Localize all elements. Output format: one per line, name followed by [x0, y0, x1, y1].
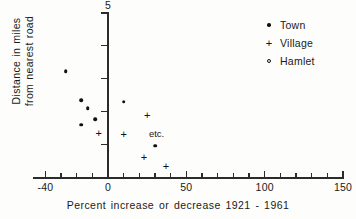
data-point-village: +	[140, 152, 149, 161]
data-point-town	[153, 144, 157, 148]
x-axis-minor-tick	[280, 173, 281, 178]
data-point-town	[122, 100, 126, 104]
data-point-town	[86, 106, 90, 110]
y-axis-tick	[101, 111, 107, 112]
x-axis-major-tick	[342, 171, 343, 178]
x-axis-minor-tick	[60, 173, 61, 178]
x-axis-line	[33, 177, 344, 179]
scatter-chart-figure: 5 -40050100150 +++++ etc. Town+VillageHa…	[0, 0, 356, 219]
x-axis-minor-tick	[311, 173, 312, 178]
x-axis-minor-tick	[248, 173, 249, 178]
x-axis-minor-tick	[327, 173, 328, 178]
y-axis-tick	[101, 78, 107, 79]
x-axis-tick-label: 150	[334, 181, 352, 193]
legend-item-town[interactable]: Town	[262, 16, 315, 34]
legend-item-village[interactable]: +Village	[262, 34, 315, 52]
y-axis-tick	[101, 144, 107, 145]
x-axis-minor-tick	[170, 173, 171, 178]
legend-item-label: Village	[280, 37, 313, 49]
filled-circle-glyph	[267, 23, 271, 27]
y-axis-title-line-1: Distance in miles	[10, 0, 23, 126]
legend-item-hamlet[interactable]: Hamlet	[262, 52, 315, 70]
x-axis-minor-tick	[201, 173, 202, 178]
x-axis-tick-label: 100	[256, 181, 274, 193]
y-axis-title-line-2: from nearest road	[23, 0, 36, 126]
x-axis-minor-tick	[123, 173, 124, 178]
x-axis-tick-label: -40	[37, 181, 53, 193]
x-axis-minor-tick	[295, 173, 296, 178]
data-point-town	[80, 98, 84, 102]
plot-annotation-etc: etc.	[149, 128, 164, 139]
y-axis-tick	[101, 45, 107, 46]
x-axis-major-tick	[264, 171, 265, 178]
x-axis-title: Percent increase or decrease 1921 - 1961	[0, 199, 356, 211]
open-circle-glyph	[267, 59, 272, 64]
y-axis-title: Distance in miles from nearest road	[10, 0, 36, 126]
data-point-village: +	[143, 111, 152, 120]
x-axis-minor-tick	[92, 173, 93, 178]
x-axis-minor-tick	[233, 173, 234, 178]
plus-glyph: +	[266, 38, 272, 49]
data-point-town	[94, 117, 98, 121]
y-axis-tick	[101, 12, 107, 13]
x-axis-minor-tick	[154, 173, 155, 178]
y-axis-line	[107, 12, 109, 178]
data-point-village: +	[161, 161, 170, 170]
legend-item-label: Hamlet	[280, 55, 315, 67]
open-circle-icon	[262, 59, 276, 64]
chart-legend: Town+VillageHamlet	[262, 16, 315, 70]
x-axis-minor-tick	[217, 173, 218, 178]
x-axis-major-tick	[186, 171, 187, 178]
legend-item-label: Town	[280, 19, 306, 31]
x-axis-tick-label: 0	[105, 181, 111, 193]
x-axis-major-tick	[45, 171, 46, 178]
data-point-village: +	[94, 129, 103, 138]
plus-icon: +	[262, 38, 276, 49]
x-axis-minor-tick	[76, 173, 77, 178]
filled-circle-icon	[262, 23, 276, 27]
data-point-village: +	[119, 130, 128, 139]
data-point-town	[64, 70, 68, 74]
x-axis-major-tick	[107, 171, 108, 178]
y-axis-top-tick-label: 5	[105, 0, 111, 11]
x-axis-minor-tick	[139, 173, 140, 178]
x-axis-tick-label: 50	[180, 181, 192, 193]
data-point-town	[80, 123, 84, 127]
